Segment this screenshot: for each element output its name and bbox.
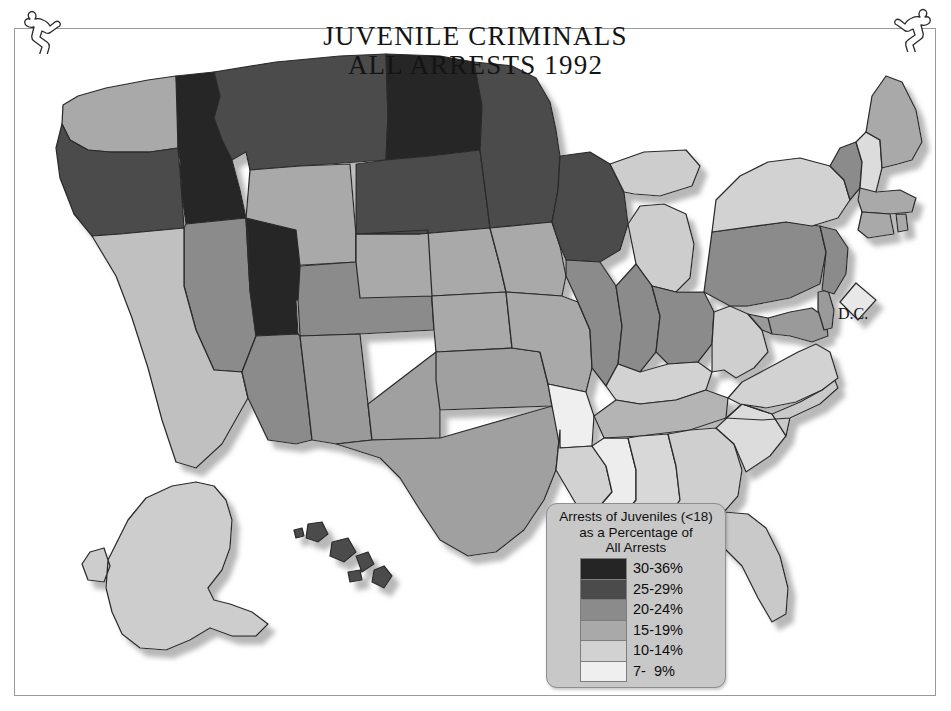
legend-panel: Arrests of Juveniles (<18) as a Percenta… (546, 503, 726, 688)
title-line-1: JUVENILE CRIMINALS (0, 22, 951, 50)
legend-label-3: 15-19% (633, 620, 719, 641)
legend-caption: Arrests of Juveniles (<18) as a Percenta… (547, 504, 725, 556)
legend-caption-line-3: All Arrests (553, 540, 719, 556)
legend-label-2: 20-24% (633, 599, 719, 620)
state-SD[interactable] (356, 150, 490, 234)
legend-swatch-column (580, 558, 627, 682)
legend-caption-line-1: Arrests of Juveniles (<18) (553, 509, 719, 525)
legend-label-4: 10-14% (633, 640, 719, 661)
running-figure-icon (20, 8, 76, 54)
state-UT[interactable] (246, 218, 302, 336)
state-PA[interactable] (704, 222, 826, 306)
state-RI[interactable] (896, 214, 908, 232)
state-OH[interactable] (652, 286, 714, 364)
state-MN[interactable] (474, 62, 560, 228)
legend-swatch-0[interactable] (581, 559, 626, 580)
legend-swatch-3[interactable] (581, 621, 626, 642)
page-title: JUVENILE CRIMINALS ALL ARRESTS 1992 (0, 22, 951, 81)
state-CT[interactable] (858, 212, 894, 238)
state-NY[interactable] (712, 158, 850, 232)
legend-label-0: 30-36% (633, 558, 719, 579)
us-states-svg (0, 0, 951, 711)
legend-caption-line-2: as a Percentage of (553, 525, 719, 541)
state-HI[interactable] (294, 522, 392, 588)
legend-label-column: 30-36%25-29%20-24%15-19%10-14%7- 9% (633, 558, 719, 681)
state-KS[interactable] (432, 292, 512, 352)
legend-swatch-2[interactable] (581, 600, 626, 621)
legend-label-5: 7- 9% (633, 661, 719, 682)
map-page: JUVENILE CRIMINALS ALL ARRESTS 1992 (0, 0, 951, 711)
running-figure-icon (879, 6, 935, 52)
legend-label-1: 25-29% (633, 579, 719, 600)
state-MA[interactable] (858, 188, 916, 214)
legend-swatch-5[interactable] (581, 662, 626, 683)
state-NE[interactable] (356, 228, 506, 298)
legend-swatch-1[interactable] (581, 580, 626, 601)
state-NM[interactable] (300, 334, 372, 444)
state-WA[interactable] (62, 76, 180, 152)
legend-swatch-4[interactable] (581, 641, 626, 662)
state-AK[interactable] (82, 482, 268, 650)
choropleth-map (0, 0, 951, 711)
title-line-2: ALL ARRESTS 1992 (0, 50, 951, 80)
dc-label: D.C. (838, 305, 868, 323)
